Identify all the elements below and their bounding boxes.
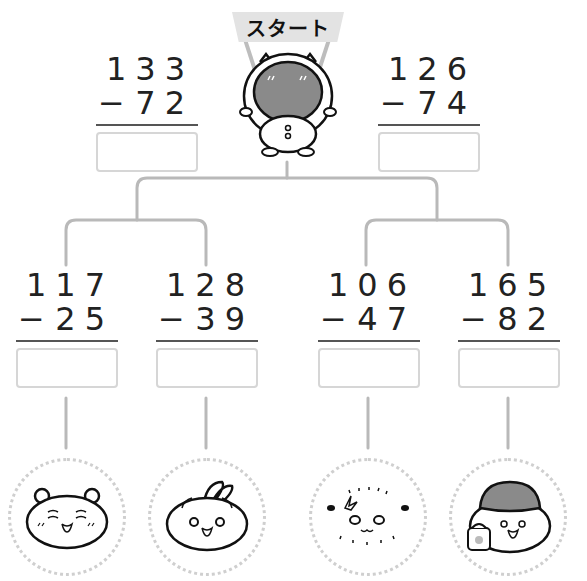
minus-sign: − — [320, 302, 347, 336]
answer-rule — [156, 340, 258, 342]
answer-box[interactable] — [156, 348, 258, 388]
subtrahend: 82 — [497, 302, 556, 336]
answer-rule — [16, 340, 118, 342]
answer-box[interactable] — [458, 348, 560, 388]
minus-sign: − — [460, 302, 487, 336]
minus-sign: − — [158, 302, 185, 336]
problem-bottom-1: 117 −25 — [16, 268, 118, 388]
problem-bottom-3: 106 −47 — [318, 268, 420, 388]
answer-box[interactable] — [318, 348, 420, 388]
minuend: 165 — [468, 268, 556, 302]
subtrahend: 39 — [195, 302, 254, 336]
answer-rule — [318, 340, 420, 342]
seal-face-icon — [325, 486, 411, 550]
minuend: 106 — [328, 268, 416, 302]
problem-bottom-4: 165 −82 — [458, 268, 560, 388]
answer-rule — [458, 340, 560, 342]
helmet-character-icon — [464, 478, 554, 558]
answer-box[interactable] — [16, 348, 118, 388]
subtrahend: 47 — [357, 302, 416, 336]
problem-bottom-2: 128 −39 — [156, 268, 258, 388]
minuend: 117 — [26, 268, 114, 302]
subtrahend: 25 — [55, 302, 114, 336]
minus-sign: − — [18, 302, 45, 336]
bear-face-icon — [24, 486, 110, 550]
minuend: 128 — [166, 268, 254, 302]
rabbit-face-icon — [164, 478, 250, 552]
